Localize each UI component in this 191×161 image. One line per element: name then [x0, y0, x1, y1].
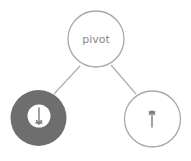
- edge-pivot-to-left: [54, 66, 80, 94]
- node-pivot-label: pivot: [82, 33, 110, 46]
- pivot-tree-diagram: pivot: [0, 0, 191, 161]
- node-pivot: pivot: [68, 11, 124, 67]
- edge-pivot-to-right: [111, 65, 136, 94]
- node-left: [11, 90, 67, 146]
- node-right: [125, 91, 181, 147]
